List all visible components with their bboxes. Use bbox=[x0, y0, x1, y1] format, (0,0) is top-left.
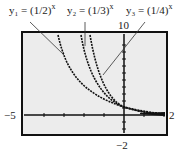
graph-figure bbox=[0, 0, 176, 155]
equation-y1: y₁ = (1/2)x bbox=[9, 2, 55, 16]
xmax-label: 2 bbox=[169, 109, 175, 121]
xmin-label: −5 bbox=[4, 109, 16, 121]
ymax-label: 10 bbox=[118, 19, 129, 31]
ymin-label: −2 bbox=[116, 139, 128, 151]
equation-y2: y₂ = (1/3)x bbox=[67, 2, 113, 16]
calculator-screen bbox=[22, 32, 167, 135]
equation-y3: y₃ = (1/4)x bbox=[126, 2, 172, 16]
